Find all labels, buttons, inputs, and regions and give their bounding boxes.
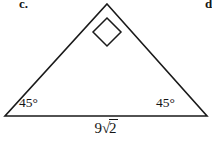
base-coefficient: 9 [94, 120, 102, 136]
right-angle-marker-icon [93, 18, 121, 46]
geometry-figure-panel: c. d. 45° 45° 9√2 [0, 0, 212, 142]
angle-label-bottom-left: 45° [19, 96, 38, 110]
angle-label-bottom-right: 45° [156, 96, 175, 110]
radical-expression: √2 [102, 119, 118, 137]
radicand-value: 2 [109, 119, 118, 136]
base-side-label: 9√2 [0, 119, 212, 137]
